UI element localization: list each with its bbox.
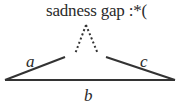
label-c: c — [140, 52, 148, 71]
left-segment-a — [5, 57, 65, 80]
dotted-left-gap — [75, 25, 86, 54]
label-b: b — [84, 86, 93, 105]
sadness-gap-diagram: sadness gap :*( a c b — [0, 0, 187, 108]
dotted-right-gap — [86, 25, 98, 54]
label-a: a — [26, 52, 35, 71]
triangle-figure: a c b — [0, 0, 187, 108]
